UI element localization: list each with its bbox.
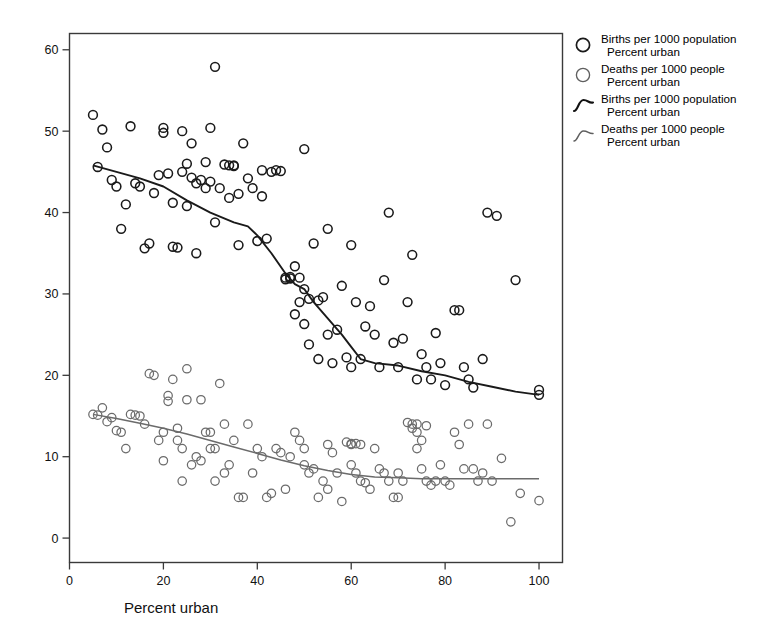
- curve-line-icon: [572, 95, 596, 115]
- data-point: [516, 489, 524, 497]
- y-tick-label: 0: [52, 532, 59, 546]
- data-point: [403, 298, 412, 307]
- data-point: [173, 436, 181, 444]
- data-point: [328, 359, 337, 368]
- data-point: [492, 211, 501, 220]
- legend-label-line1: Births per 1000 population: [601, 92, 767, 105]
- y-tick-label: 50: [45, 125, 59, 139]
- data-point: [469, 465, 477, 473]
- data-point: [216, 379, 224, 387]
- y-tick-label: 30: [45, 287, 59, 301]
- data-point: [234, 241, 243, 250]
- data-point: [154, 171, 163, 180]
- data-point: [295, 273, 304, 282]
- legend-entry-births-points[interactable]: Births per 1000 population Percent urban: [563, 33, 768, 61]
- data-point: [422, 422, 430, 430]
- y-axis-ticks: 0102030405060: [45, 43, 70, 545]
- data-point: [225, 461, 233, 469]
- births-scatter-points: [89, 62, 544, 399]
- data-point: [431, 329, 440, 338]
- legend-entry-deaths-line[interactable]: Deaths per 1000 people Percent urban: [563, 123, 768, 151]
- data-point: [380, 276, 389, 285]
- curve-line-icon: [572, 125, 596, 145]
- data-point: [183, 396, 191, 404]
- data-point: [469, 383, 478, 392]
- x-tick-label: 20: [156, 574, 170, 588]
- data-point: [314, 355, 323, 364]
- data-point: [121, 200, 130, 209]
- data-point: [436, 359, 445, 368]
- data-point: [150, 189, 159, 198]
- legend-label-line2: Percent urban: [601, 135, 767, 148]
- data-point: [338, 497, 346, 505]
- legend-entry-births-line[interactable]: Births per 1000 population Percent urban: [563, 93, 768, 121]
- deaths-scatter-points: [89, 365, 543, 526]
- data-point: [342, 353, 351, 362]
- data-point: [290, 310, 299, 319]
- data-point: [262, 234, 271, 243]
- data-point: [535, 496, 543, 504]
- y-tick-label: 40: [45, 206, 59, 220]
- data-point: [164, 169, 173, 178]
- data-point: [164, 397, 172, 405]
- legend-entry-label: Deaths per 1000 people Percent urban: [601, 122, 767, 148]
- open-circle-icon: [572, 65, 596, 85]
- data-point: [248, 184, 257, 193]
- data-point: [211, 218, 220, 227]
- data-point: [403, 418, 411, 426]
- data-point: [206, 177, 215, 186]
- data-point: [422, 363, 431, 372]
- data-point: [295, 298, 304, 307]
- data-point: [211, 62, 220, 71]
- data-point: [220, 469, 228, 477]
- data-point: [319, 477, 327, 485]
- data-point: [182, 159, 191, 168]
- data-point: [281, 485, 289, 493]
- data-point: [417, 436, 425, 444]
- data-point: [291, 428, 299, 436]
- data-point: [258, 192, 267, 201]
- data-point: [483, 208, 492, 217]
- data-point: [337, 281, 346, 290]
- data-point: [117, 428, 125, 436]
- data-point: [244, 420, 252, 428]
- data-point: [168, 198, 177, 207]
- legend-entry-deaths-points[interactable]: Deaths per 1000 people Percent urban: [563, 63, 768, 91]
- data-point: [497, 454, 505, 462]
- data-point: [398, 334, 407, 343]
- data-point: [347, 363, 356, 372]
- data-point: [436, 461, 444, 469]
- data-point: [112, 426, 120, 434]
- data-point: [187, 461, 195, 469]
- data-point: [347, 461, 355, 469]
- data-point: [366, 302, 375, 311]
- data-point: [206, 124, 215, 133]
- data-point: [366, 485, 374, 493]
- data-point: [450, 428, 458, 436]
- data-point: [394, 469, 402, 477]
- x-tick-label: 80: [438, 574, 452, 588]
- data-point: [295, 436, 303, 444]
- data-point: [253, 444, 261, 452]
- data-point: [98, 404, 106, 412]
- legend: Births per 1000 population Percent urban…: [563, 33, 768, 155]
- scatter-plot-figure: 0102030405060 020406080100 Percent urban…: [0, 0, 771, 641]
- births-fit-line: [93, 165, 539, 395]
- data-point: [234, 189, 243, 198]
- data-point: [215, 184, 224, 193]
- data-point: [244, 174, 253, 183]
- data-point: [305, 340, 314, 349]
- data-point: [169, 375, 177, 383]
- data-point: [117, 224, 126, 233]
- legend-label-line1: Deaths per 1000 people: [601, 122, 767, 135]
- data-point: [248, 469, 256, 477]
- data-point: [183, 365, 191, 373]
- x-tick-label: 0: [66, 574, 73, 588]
- data-point: [511, 276, 520, 285]
- data-point: [413, 444, 421, 452]
- data-point: [258, 166, 267, 175]
- legend-entry-label: Births per 1000 population Percent urban: [601, 92, 767, 118]
- data-point: [370, 444, 378, 452]
- legend-label-line2: Percent urban: [601, 75, 767, 88]
- data-point: [155, 436, 163, 444]
